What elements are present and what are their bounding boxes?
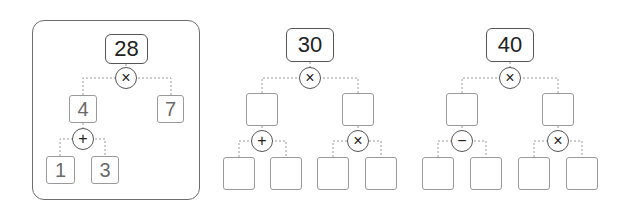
multiply-icon: × xyxy=(115,67,137,89)
multiply-icon: × xyxy=(299,67,321,89)
minus-icon: − xyxy=(451,130,473,152)
tree2-leaf-2-input[interactable] xyxy=(270,157,302,190)
tree3-leaf-1-input[interactable] xyxy=(422,157,454,190)
multiply-icon: × xyxy=(547,130,569,152)
tree3-leaf-3-input[interactable] xyxy=(518,157,550,190)
plus-icon: + xyxy=(72,128,94,150)
tree1-root-value: 28 xyxy=(105,34,148,64)
tree2-mid-right-input[interactable] xyxy=(342,93,374,126)
tree3-mid-left-input[interactable] xyxy=(446,93,478,126)
multiply-icon: × xyxy=(499,67,521,89)
tree1-leaf-1: 1 xyxy=(46,156,75,184)
tree2-mid-left-input[interactable] xyxy=(246,93,278,126)
tree1-mid-right: 7 xyxy=(157,95,184,123)
tree2-leaf-1-input[interactable] xyxy=(223,157,255,190)
tree2-leaf-3-input[interactable] xyxy=(317,157,349,190)
tree3-leaf-4-input[interactable] xyxy=(566,157,598,190)
tree1-mid-left: 4 xyxy=(69,95,97,123)
tree3-mid-right-input[interactable] xyxy=(542,93,574,126)
tree1-leaf-2: 3 xyxy=(91,156,119,184)
tree3-leaf-2-input[interactable] xyxy=(470,157,502,190)
tree3-root-value: 40 xyxy=(486,28,534,62)
plus-icon: + xyxy=(251,130,273,152)
tree2-root-value: 30 xyxy=(286,28,334,62)
multiply-icon: × xyxy=(347,130,369,152)
tree2-leaf-4-input[interactable] xyxy=(365,157,397,190)
